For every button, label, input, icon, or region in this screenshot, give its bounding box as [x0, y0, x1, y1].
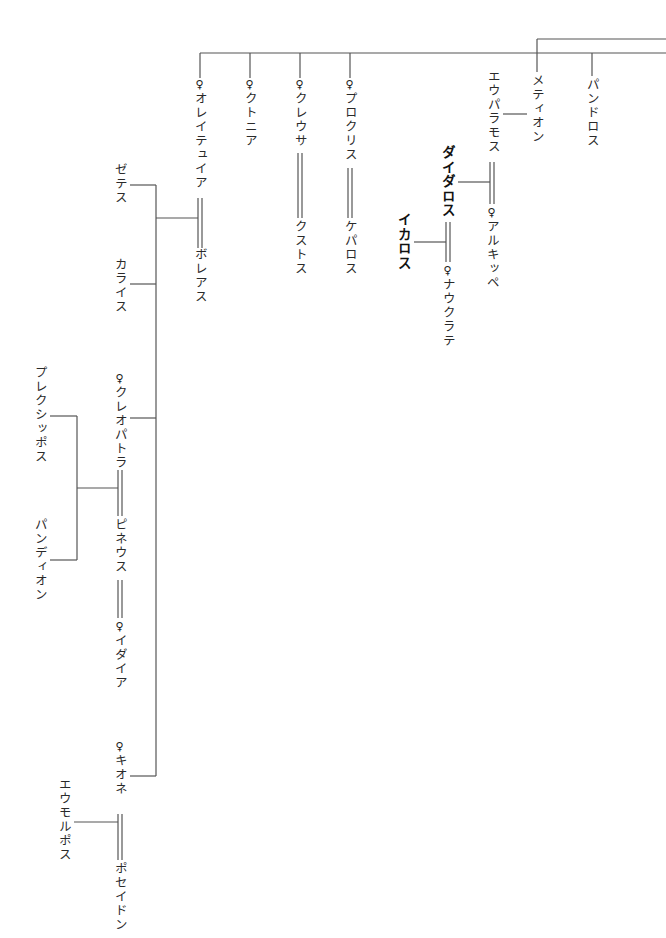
- female-icon: ♀: [485, 206, 498, 220]
- person-xouthos: クストス: [293, 220, 306, 276]
- person-chthonia: ♀クトニア: [243, 78, 256, 148]
- female-icon: ♀: [243, 78, 256, 92]
- female-icon: ♀: [113, 620, 126, 634]
- person-eumolpos: エウモルポス: [57, 778, 70, 862]
- person-naukrate: ♀ナウクラテ: [441, 264, 454, 348]
- person-ikaros: イカロス: [397, 212, 410, 270]
- female-icon: ♀: [193, 78, 206, 92]
- person-kalais: カライス: [113, 258, 126, 314]
- person-alcippe: ♀アルキッペ: [485, 206, 498, 290]
- person-zetes: ゼテス: [113, 163, 126, 205]
- person-procris: ♀プロクリス: [343, 78, 356, 162]
- person-pandion: パンディオン: [33, 518, 46, 602]
- person-idaia: ♀イダイア: [113, 620, 126, 690]
- person-oreithyia: ♀オレイテュイア: [193, 78, 206, 190]
- female-icon: ♀: [343, 78, 356, 92]
- person-phineus: ピネウス: [113, 518, 126, 574]
- female-icon: ♀: [441, 264, 454, 278]
- person-chione: ♀キオネ: [113, 740, 126, 796]
- female-icon: ♀: [293, 78, 306, 92]
- person-metion: メティオン: [530, 74, 543, 144]
- person-poseidon: ポセイドン: [113, 862, 126, 932]
- tree-connector-lines: [0, 0, 666, 938]
- person-kleopatra: ♀クレオパトラ: [113, 372, 126, 470]
- person-eupalamos: エウパラモス: [486, 70, 499, 154]
- person-creusa: ♀クレウサ: [293, 78, 306, 148]
- female-icon: ♀: [113, 372, 126, 386]
- person-pandoros: パンドロス: [585, 78, 598, 148]
- person-kephalos: ケパロス: [343, 220, 356, 276]
- person-boreas: ボレアス: [193, 248, 206, 304]
- person-plexippos: プレクシッポス: [33, 366, 46, 464]
- female-icon: ♀: [113, 740, 126, 754]
- person-daidalos: ダイダロス: [441, 145, 454, 218]
